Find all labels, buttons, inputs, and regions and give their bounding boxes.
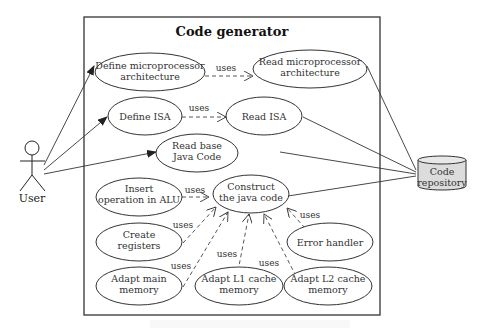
use-case-label: Adapt main bbox=[110, 273, 166, 284]
use-case-label: operation in ALU bbox=[98, 194, 180, 205]
stick-figure-icon bbox=[20, 141, 45, 191]
uses-label: uses bbox=[300, 210, 321, 220]
repository-label-line2: repository bbox=[417, 177, 467, 188]
repository-label-line1: Code bbox=[430, 166, 455, 177]
use-case-adapt-l2[interactable]: Adapt L2 cache memory bbox=[284, 267, 372, 305]
uses-label: uses bbox=[216, 63, 237, 73]
use-case-label: memory bbox=[219, 284, 259, 295]
use-case-construct[interactable]: Construct the java code bbox=[213, 175, 289, 213]
use-case-label: the java code bbox=[219, 192, 283, 203]
use-case-label: Error handler bbox=[297, 237, 364, 248]
system-title: Code generator bbox=[176, 24, 289, 39]
uses-label: uses bbox=[173, 220, 194, 230]
use-case-define-isa[interactable]: Define ISA bbox=[108, 97, 182, 135]
use-case-adapt-main[interactable]: Adapt main memory bbox=[96, 267, 182, 305]
use-case-label: Define microprocessor bbox=[95, 60, 205, 71]
actor-label: User bbox=[19, 192, 46, 205]
use-case-label: memory bbox=[119, 284, 159, 295]
use-case-create-registers[interactable]: Create registers bbox=[96, 223, 182, 261]
use-case-error-handler[interactable]: Error handler bbox=[287, 223, 373, 261]
use-case-diagram: Code generator User Code repository bbox=[0, 0, 487, 334]
use-case-label: Read base bbox=[172, 140, 222, 151]
use-case-define-arch[interactable]: Define microprocessor architecture bbox=[95, 53, 205, 91]
use-case-label: Define ISA bbox=[119, 111, 171, 122]
use-case-read-base[interactable]: Read base Java Code bbox=[156, 134, 238, 172]
use-case-label: Create bbox=[123, 229, 156, 240]
uses-label: uses bbox=[185, 185, 206, 195]
code-repository[interactable]: Code repository bbox=[417, 156, 467, 190]
use-case-adapt-l1[interactable]: Adapt L1 cache memory bbox=[195, 267, 283, 305]
use-case-label: Adapt L1 cache bbox=[201, 273, 277, 284]
use-case-label: architecture bbox=[280, 67, 340, 78]
faint-caption bbox=[150, 320, 350, 328]
use-case-label: architecture bbox=[120, 71, 180, 82]
use-case-label: memory bbox=[308, 284, 348, 295]
actor-user[interactable]: User bbox=[19, 141, 46, 205]
uses-label: uses bbox=[259, 258, 280, 268]
use-case-read-arch[interactable]: Read microprocessor architecture bbox=[253, 50, 367, 88]
uses-label: uses bbox=[171, 261, 192, 271]
use-case-label: Read ISA bbox=[242, 111, 287, 122]
use-case-label: Construct bbox=[227, 181, 275, 192]
use-case-label: Java Code bbox=[172, 151, 222, 162]
use-case-read-isa[interactable]: Read ISA bbox=[226, 97, 302, 135]
use-case-label: Adapt L2 cache bbox=[290, 273, 366, 284]
uses-label: uses bbox=[189, 103, 210, 113]
use-case-insert-alu[interactable]: Insert operation in ALU bbox=[96, 178, 182, 216]
use-case-label: registers bbox=[117, 240, 160, 251]
uses-label: uses bbox=[217, 249, 238, 259]
use-case-label: Insert bbox=[125, 183, 154, 194]
use-case-label: Read microprocessor bbox=[259, 56, 362, 67]
